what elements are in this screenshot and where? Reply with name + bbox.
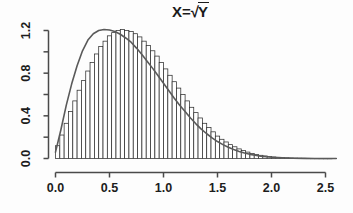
histogram-bar	[202, 123, 206, 158]
histogram-bar	[90, 63, 94, 159]
histogram-bar	[116, 31, 120, 159]
x-axis-tick-label: 0.5	[101, 181, 118, 195]
histogram-bar	[107, 36, 111, 159]
histogram-bar	[172, 82, 176, 159]
histogram-bar	[185, 101, 189, 159]
histogram-bar	[181, 95, 185, 159]
x-axis-tick-label: 0.0	[47, 181, 64, 195]
histogram-bar	[215, 136, 219, 158]
histogram-bar	[138, 37, 142, 159]
histogram-bar	[81, 81, 85, 159]
histogram-bar	[125, 31, 129, 159]
x-axis-tick-label: 2.0	[263, 181, 280, 195]
histogram-bar	[211, 132, 215, 159]
histogram-bar	[164, 69, 168, 159]
y-axis-tick-label: 1.2	[19, 22, 33, 39]
histogram-bar	[103, 41, 107, 158]
histogram-bar	[68, 112, 72, 159]
histogram-bar	[99, 47, 103, 159]
histogram-bar	[194, 113, 198, 159]
x-axis: 0.00.51.01.52.02.5	[47, 173, 334, 196]
histogram-bar	[176, 88, 180, 158]
histogram-density-plot: 0.00.40.81.2 0.00.51.01.52.02.5	[0, 0, 353, 213]
histogram-bar	[120, 29, 124, 158]
histogram-bar	[112, 33, 116, 159]
histogram-bar	[133, 34, 137, 159]
histogram-bar	[77, 90, 81, 158]
histogram-bar	[60, 135, 64, 158]
histogram-bar	[168, 75, 172, 158]
histogram-bar	[73, 101, 77, 159]
plot-figure: X=√Y 0.00.40.81.2 0.00.51.01.52.02.5	[0, 0, 353, 213]
histogram-bar	[94, 54, 98, 159]
y-axis: 0.00.40.81.2	[19, 22, 49, 167]
x-axis-tick-label: 2.5	[317, 181, 334, 195]
x-axis-tick-label: 1.5	[209, 181, 226, 195]
histogram-bar	[224, 142, 228, 159]
x-axis-tick-label: 1.0	[155, 181, 172, 195]
histogram-bar	[86, 71, 90, 158]
histogram-bar	[64, 123, 68, 158]
histogram-bar	[189, 107, 193, 158]
y-axis-tick-label: 0.0	[19, 150, 33, 167]
histogram-bar	[198, 118, 202, 159]
histogram-bars	[56, 29, 332, 158]
histogram-bar	[207, 128, 211, 159]
y-axis-tick-label: 0.8	[19, 64, 33, 81]
histogram-bar	[129, 32, 133, 159]
y-axis-tick-label: 0.4	[19, 107, 33, 124]
histogram-bar	[220, 139, 224, 158]
